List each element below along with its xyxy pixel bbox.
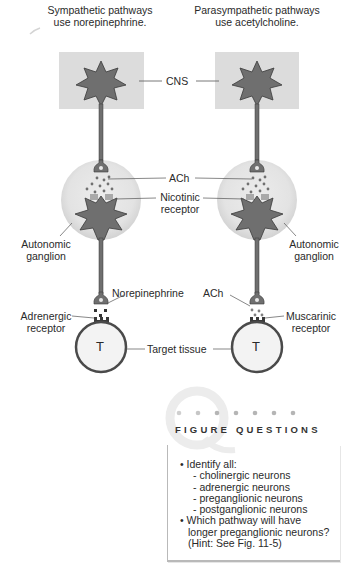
nicotinic-label-line1: Nicotinic xyxy=(154,191,206,203)
figure-questions-list: • Identify all: - cholinergic neurons - … xyxy=(180,459,329,549)
postganglionic-terminal-right xyxy=(250,292,264,304)
parasympathetic-title-line2: use acetylcholine. xyxy=(190,16,324,28)
target-letter-left: T xyxy=(96,341,104,353)
sympathetic-title-line2: use norepinephrine. xyxy=(35,16,165,28)
autonomic-ganglion-label-left: Autonomic ganglion xyxy=(18,238,74,262)
muscarinic-receptor-label: Muscarinic receptor xyxy=(283,310,339,334)
norepinephrine-label: Norepinephrine xyxy=(112,287,184,299)
cns-label: CNS xyxy=(166,75,188,87)
adrenergic-label-line2: receptor xyxy=(18,322,74,334)
autonomic-right-line2: ganglion xyxy=(286,250,342,262)
ach-label-ganglion: ACh xyxy=(169,172,189,184)
ach-label-target: ACh xyxy=(203,287,223,299)
sympathetic-title: Sympathetic pathways use norepinephrine. xyxy=(35,4,165,28)
target-letter-right: T xyxy=(252,341,260,353)
corner-mark xyxy=(30,28,40,34)
postganglionic-terminal-left xyxy=(94,292,108,304)
autonomic-left-line2: ganglion xyxy=(18,250,74,262)
muscarinic-label-line1: Muscarinic xyxy=(283,310,339,322)
autonomic-right-line1: Autonomic xyxy=(286,238,342,250)
figure-questions-dots xyxy=(177,411,296,416)
autonomic-ganglion-label-right: Autonomic ganglion xyxy=(286,238,342,262)
muscarinic-label-line2: receptor xyxy=(283,322,339,334)
question-subitem: - cholinergic neurons xyxy=(180,470,329,481)
question-hint: (Hint: See Fig. 11-5) xyxy=(180,538,329,549)
figure-questions-title: FIGURE QUESTIONS xyxy=(175,424,321,435)
adrenergic-label-line1: Adrenergic xyxy=(18,310,74,322)
target-tissue-label: Target tissue xyxy=(147,343,207,355)
adrenergic-receptor-label: Adrenergic receptor xyxy=(18,310,74,334)
nicotinic-label-line2: receptor xyxy=(154,203,206,215)
nicotinic-receptor-label: Nicotinic receptor xyxy=(154,191,206,215)
ach-molecules-bottom xyxy=(251,309,264,317)
norepinephrine-molecules xyxy=(94,309,107,317)
autonomic-left-line1: Autonomic xyxy=(18,238,74,250)
nicotinic-receptor-right xyxy=(246,194,254,200)
parasympathetic-title-line1: Parasympathetic pathways xyxy=(190,4,324,16)
nicotinic-receptor-left xyxy=(90,194,98,200)
sympathetic-title-line1: Sympathetic pathways xyxy=(35,4,165,16)
parasympathetic-title: Parasympathetic pathways use acetylcholi… xyxy=(190,4,324,28)
question-q-watermark-icon xyxy=(170,391,235,450)
